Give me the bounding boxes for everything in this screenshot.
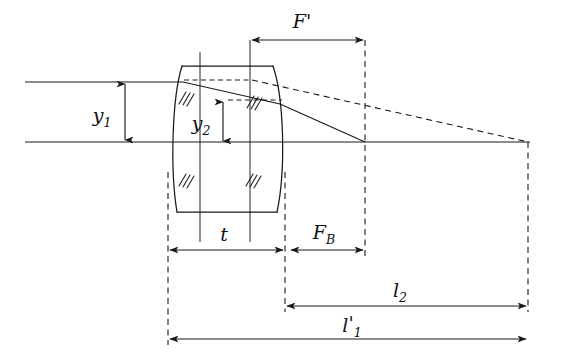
label-back-focal: FB <box>312 221 335 247</box>
ray-virtual-to-image <box>252 80 528 142</box>
dimension-l1-prime: l'1 <box>170 312 526 340</box>
lens-right-surface <box>273 66 283 212</box>
reference-verticals <box>168 40 528 345</box>
lens-left-surface <box>173 66 182 212</box>
label-l2: l2 <box>393 279 407 305</box>
dimension-thickness: t <box>170 223 283 250</box>
ray-to-focus <box>280 104 365 142</box>
construction-rays <box>184 80 528 142</box>
height-y2: y2 <box>191 102 223 141</box>
label-l1-prime: l'1 <box>342 312 361 340</box>
label-y2: y2 <box>191 112 211 138</box>
glass-hatch-icon <box>246 174 261 188</box>
ray-inside-lens <box>183 82 280 104</box>
dimension-back-focal: FB <box>291 221 363 250</box>
glass-hatch-icon <box>179 174 194 188</box>
label-thickness: t <box>220 223 228 245</box>
dimension-l2: l2 <box>287 279 526 306</box>
lens-element <box>173 66 283 212</box>
height-y1: y1 <box>92 84 125 140</box>
glass-hatch-icon <box>179 92 194 106</box>
label-y1: y1 <box>92 104 112 130</box>
label-focal-length: F' <box>292 10 311 32</box>
dimension-focal-length: F' <box>252 10 363 40</box>
optical-diagram-figure: F' t FB l2 l'1 y1 y2 <box>0 0 561 359</box>
ray-diagram-canvas: F' t FB l2 l'1 y1 y2 <box>0 0 561 359</box>
